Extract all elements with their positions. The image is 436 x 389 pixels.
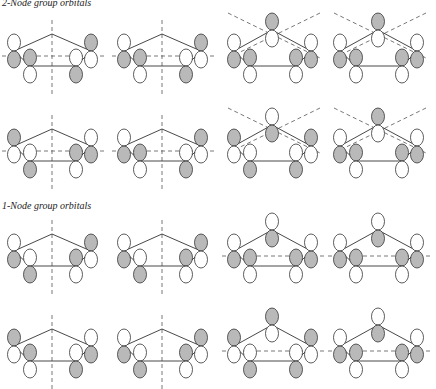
p-orbital-right-outer: [411, 234, 424, 268]
p-orbital-apex: [372, 108, 385, 142]
p-orbital-apex: [266, 308, 279, 342]
p-orbital-left-outer: [8, 34, 21, 68]
p-orbital-right-outer: [85, 129, 98, 163]
p-orbital-left-outer: [334, 329, 347, 363]
p-orbital-right-outer: [411, 329, 424, 363]
p-orbital-apex: [372, 13, 385, 47]
group-orbital-diagram: [326, 0, 436, 100]
group-orbital-diagram: [220, 200, 330, 300]
p-orbital-left-outer: [118, 329, 131, 363]
p-orbital-apex: [372, 308, 385, 342]
group-orbital-diagram: [0, 295, 110, 389]
p-orbital-right-outer: [305, 329, 318, 363]
group-orbital-diagram: [220, 295, 330, 389]
p-orbital-left-outer: [334, 129, 347, 163]
group-orbital-diagram: [110, 295, 220, 389]
p-orbital-apex: [266, 213, 279, 247]
group-orbital-diagram: [0, 0, 110, 100]
group-orbital-diagram: [0, 200, 110, 300]
p-orbital-left-outer: [228, 234, 241, 268]
p-orbital-left-outer: [8, 129, 21, 163]
p-orbital-left-outer: [8, 234, 21, 268]
p-orbital-right-outer: [85, 34, 98, 68]
group-orbital-diagram: [0, 95, 110, 195]
p-orbital-right-outer: [85, 234, 98, 268]
p-orbital-left-outer: [334, 234, 347, 268]
p-orbital-left-outer: [118, 129, 131, 163]
p-orbital-left-outer: [228, 129, 241, 163]
p-orbital-right-outer: [195, 329, 208, 363]
group-orbital-diagram: [326, 200, 436, 300]
p-orbital-right-outer: [305, 234, 318, 268]
p-orbital-apex: [266, 108, 279, 142]
p-orbital-right-outer: [195, 34, 208, 68]
group-orbital-diagram: [110, 0, 220, 100]
p-orbital-right-outer: [195, 234, 208, 268]
p-orbital-apex: [372, 213, 385, 247]
group-orbital-diagram: [110, 95, 220, 195]
p-orbital-apex: [266, 13, 279, 47]
p-orbital-left-outer: [228, 34, 241, 68]
group-orbital-diagram: [326, 95, 436, 195]
p-orbital-right-outer: [195, 129, 208, 163]
p-orbital-left-outer: [8, 329, 21, 363]
p-orbital-left-outer: [228, 329, 241, 363]
group-orbital-diagram: [220, 0, 330, 100]
p-orbital-left-outer: [334, 34, 347, 68]
group-orbital-diagram: [220, 95, 330, 195]
group-orbital-diagram: [326, 295, 436, 389]
group-orbital-diagram: [110, 200, 220, 300]
p-orbital-left-outer: [118, 234, 131, 268]
p-orbital-left-outer: [118, 34, 131, 68]
p-orbital-right-outer: [85, 329, 98, 363]
